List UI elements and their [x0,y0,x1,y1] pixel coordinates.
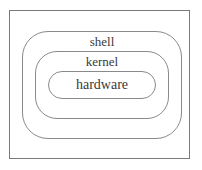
hardware-label: hardware [49,78,155,92]
shell-label: shell [23,35,181,48]
kernel-label: kernel [36,55,168,68]
hardware-layer: hardware [48,71,156,99]
